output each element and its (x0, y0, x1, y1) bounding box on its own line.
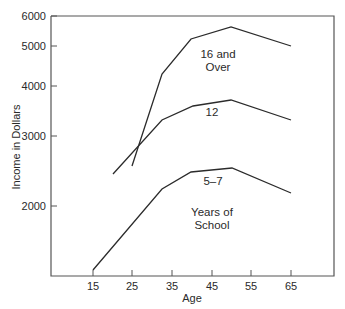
x-axis: 15 25 35 45 55 65 Age (87, 270, 297, 304)
series-label-5-7: 5–7 (203, 175, 222, 187)
x-tick-label: 25 (126, 280, 138, 292)
x-tick-label: 45 (206, 280, 218, 292)
annotation-school: School (194, 219, 229, 231)
series-label-16-line2: Over (206, 61, 231, 73)
series-line-12 (113, 100, 291, 174)
series-lines (93, 27, 291, 270)
x-axis-title: Age (182, 292, 202, 304)
series-line-5-7 (93, 168, 291, 270)
y-tick-label: 2000 (22, 200, 46, 212)
x-tick-label: 35 (166, 280, 178, 292)
plot-frame (51, 16, 334, 276)
income-by-age-chart: 6000 5000 4000 3000 2000 Income in Dolla… (0, 0, 345, 309)
y-tick-label: 4000 (22, 80, 46, 92)
y-tick-label: 6000 (22, 10, 46, 22)
x-tick-label: 15 (87, 280, 99, 292)
y-axis-title: Income in Dollars (10, 104, 22, 189)
x-tick-label: 65 (285, 280, 297, 292)
annotation-years-of: Years of (191, 206, 234, 218)
series-label-12: 12 (206, 106, 219, 118)
x-tick-label: 55 (245, 280, 257, 292)
y-tick-label: 3000 (22, 130, 46, 142)
y-axis: 6000 5000 4000 3000 2000 Income in Dolla… (10, 10, 57, 212)
series-label-16-line1: 16 and (200, 48, 235, 60)
series-labels: 16 and Over 12 5–7 Years of School (191, 48, 235, 231)
y-tick-label: 5000 (22, 40, 46, 52)
